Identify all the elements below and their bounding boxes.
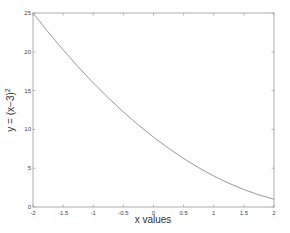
y-axis-label: y = (x−3)2 [4, 88, 16, 131]
x-axis-label: x values [135, 214, 172, 225]
x-tick-label: 1 [212, 210, 216, 216]
x-tick-label: 1.5 [240, 210, 249, 216]
x-tick-label: -2 [30, 210, 36, 216]
y-tick-label: 15 [24, 88, 31, 94]
x-tick-label: -1 [91, 210, 97, 216]
line-chart: -2-1.5-1-0.500.511.52 0510152025 x value… [0, 0, 290, 233]
y-tick-labels: 0510152025 [24, 10, 31, 210]
x-tick-label: -1.5 [58, 210, 69, 216]
x-tick-label: -0.5 [118, 210, 129, 216]
y-tick-label: 20 [24, 49, 31, 55]
x-tick-label: 2 [272, 210, 276, 216]
y-tick-label: 5 [28, 165, 32, 171]
y-tick-label: 25 [24, 10, 31, 16]
x-tick-label: 0.5 [179, 210, 188, 216]
y-tick-label: 10 [24, 126, 31, 132]
plot-background [33, 13, 274, 207]
